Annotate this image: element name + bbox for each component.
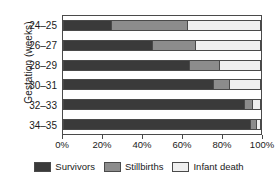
- stacked-bar-chart: Gestation (weeks) 24–25 26–27 28–29 30–3…: [0, 0, 278, 185]
- bar-segment-survivors: [64, 61, 189, 70]
- chart-legend: SurvivorsStillbirthsInfant death: [0, 161, 278, 172]
- y-tick-label-34-35: 34–35: [16, 115, 60, 135]
- bar-segment-infant-death: [252, 100, 260, 109]
- bar-segment-stillbirths: [152, 41, 195, 50]
- legend-swatch: [172, 162, 189, 172]
- legend-label: Stillbirths: [125, 161, 164, 172]
- bar-segment-survivors: [64, 120, 250, 129]
- y-tick-label-30-31: 30–31: [16, 75, 60, 95]
- legend-item-survivors: Survivors: [34, 161, 95, 172]
- bar-row: [63, 20, 261, 31]
- bar-segment-infant-death: [229, 80, 260, 89]
- bar-segment-infant-death: [195, 41, 260, 50]
- y-axis-tick-labels: 24–25 26–27 28–29 30–31 32–33 34–35: [16, 15, 60, 135]
- bar-segment-infant-death: [187, 21, 260, 30]
- y-tick-label-26-27: 26–27: [16, 35, 60, 55]
- bar-segment-stillbirths: [213, 80, 229, 89]
- bar-segment-stillbirths: [189, 61, 218, 70]
- bar-segment-survivors: [64, 100, 244, 109]
- legend-item-stillbirths: Stillbirths: [104, 161, 164, 172]
- plot-area: [62, 15, 262, 135]
- x-axis-tick-labels: 0%20%40%60%80%100%: [62, 139, 262, 152]
- x-tick-label-40: 40%: [132, 139, 151, 150]
- legend-swatch: [104, 162, 121, 172]
- x-tick-label-60: 60%: [172, 139, 191, 150]
- bar-segment-stillbirths: [111, 21, 187, 30]
- bar-segment-survivors: [64, 41, 152, 50]
- legend-label: Infant death: [193, 161, 243, 172]
- legend-item-infant-death: Infant death: [172, 161, 243, 172]
- bar-slot: [63, 114, 261, 134]
- bars-layer: [63, 16, 261, 134]
- x-tick-label-80: 80%: [212, 139, 231, 150]
- x-tick-label-20: 20%: [92, 139, 111, 150]
- bar-row: [63, 119, 261, 130]
- bar-row: [63, 79, 261, 90]
- bar-row: [63, 60, 261, 71]
- bar-segment-survivors: [64, 80, 213, 89]
- bar-slot: [63, 16, 261, 36]
- bar-slot: [63, 95, 261, 115]
- y-tick-label-32-33: 32–33: [16, 95, 60, 115]
- bar-slot: [63, 55, 261, 75]
- bar-row: [63, 99, 261, 110]
- bar-slot: [63, 75, 261, 95]
- bar-segment-survivors: [64, 21, 111, 30]
- x-tick-label-0: 0%: [55, 139, 69, 150]
- bar-segment-infant-death: [256, 120, 260, 129]
- bar-segment-infant-death: [219, 61, 260, 70]
- legend-swatch: [34, 162, 51, 172]
- bar-slot: [63, 36, 261, 56]
- bar-segment-stillbirths: [244, 100, 252, 109]
- y-tick-label-24-25: 24–25: [16, 15, 60, 35]
- y-tick-label-28-29: 28–29: [16, 55, 60, 75]
- legend-label: Survivors: [55, 161, 95, 172]
- x-tick-label-100: 100%: [250, 139, 274, 150]
- bar-row: [63, 40, 261, 51]
